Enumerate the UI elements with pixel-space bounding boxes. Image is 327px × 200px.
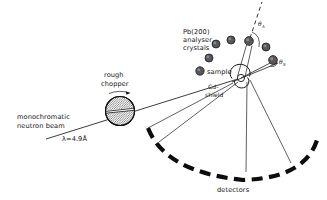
beam-label-line1: monochromatic: [17, 113, 70, 121]
analyser-crystal-4: [205, 54, 213, 62]
chopper-label-line2: chopper: [101, 80, 129, 88]
analyser-crystal-1-highlight: [214, 42, 217, 45]
neutron-spectrometer-diagram: Pb(200) analyser crystals sample Cd- shi…: [0, 0, 327, 200]
analyser-crystal-4-highlight: [207, 56, 210, 59]
sample-label: sample: [207, 68, 232, 76]
analyser-crystal-2-highlight: [229, 38, 232, 41]
analyser-crystal-5: [196, 67, 204, 75]
analyser-label-line2: analyser: [183, 36, 212, 44]
detector-arc-group: [148, 128, 317, 180]
chopper-rotation-arrowhead: [126, 91, 130, 95]
analyser-crystal-2: [227, 36, 235, 44]
analyser-arm-group: [238, 2, 263, 77]
theta-s-label: θS: [279, 58, 286, 67]
analyser-crystal-side-highlight: [270, 57, 273, 60]
analyser-crystal-main: [245, 37, 254, 46]
detector-arc: [148, 128, 317, 180]
theta-a-subscript: A: [261, 24, 265, 29]
chopper-group: [104, 91, 137, 128]
cd-shield-label-line2: shield: [205, 91, 223, 98]
wavelength-label: λ=4.9Å: [62, 134, 87, 143]
detector-ray-right: [250, 80, 291, 163]
analyser-crystal-1: [212, 40, 220, 48]
analyser-crystal-3-highlight: [264, 45, 267, 48]
cd-shield-label-line1: Cd-: [208, 83, 218, 90]
detector-ray-far-left: [148, 83, 233, 128]
detector-ray-center: [246, 82, 247, 172]
analyser-crystal-5-highlight: [197, 68, 200, 71]
analyser-arm-right: [245, 46, 252, 78]
analyser-arm-left: [238, 45, 247, 77]
detectors-label: detectors: [217, 186, 250, 194]
analyser-crystal-main-highlight: [246, 38, 249, 41]
theta-s-subscript: S: [283, 62, 286, 67]
diagram-canvas: Pb(200) analyser crystals sample Cd- shi…: [0, 0, 327, 200]
analyser-label-line1: Pb(200): [183, 28, 210, 36]
analyser-crystal-3: [262, 43, 270, 51]
beam-label-line2: neutron beam: [17, 122, 65, 130]
analyser-label-line3: crystals: [183, 44, 210, 52]
analyser-crystal-side: [269, 56, 278, 65]
chopper-label-line1: rough: [104, 71, 124, 79]
label-group: Pb(200) analyser crystals sample Cd- shi…: [17, 20, 286, 194]
theta-a-label: θA: [258, 20, 265, 29]
